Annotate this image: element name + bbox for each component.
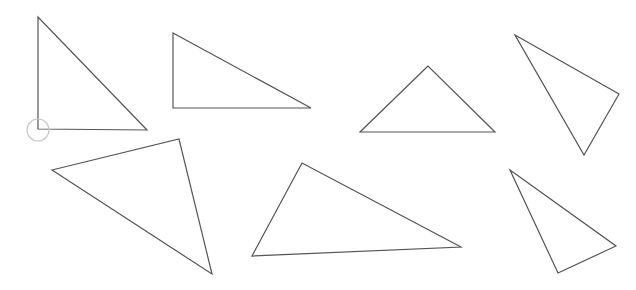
triangle-3 <box>360 66 495 132</box>
diagram-canvas <box>0 0 636 290</box>
triangle-5 <box>52 139 212 274</box>
triangle-6 <box>252 163 461 256</box>
triangle-1 <box>38 17 147 130</box>
triangle-7 <box>510 170 616 273</box>
triangle-2 <box>173 33 311 108</box>
triangle-4 <box>515 35 619 155</box>
